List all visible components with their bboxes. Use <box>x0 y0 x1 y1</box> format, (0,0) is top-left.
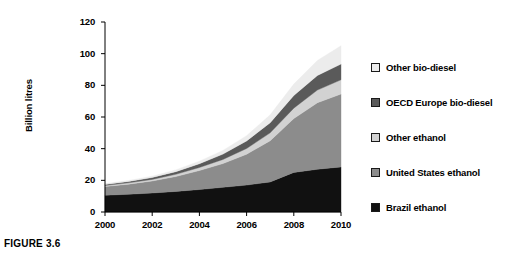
y-tick-label: 80 <box>65 79 95 90</box>
x-tick-label: 2004 <box>179 219 219 230</box>
legend-swatch-icon <box>371 98 380 107</box>
legend-label: United States ethanol <box>386 167 480 178</box>
y-tick-label: 100 <box>65 48 95 59</box>
legend-item: Other bio-diesel <box>371 50 519 85</box>
legend-swatch-icon <box>371 203 380 212</box>
figure-container: Billion litres 0204060801001202000200220… <box>0 0 519 263</box>
legend-item: Brazil ethanol <box>371 190 519 225</box>
legend-swatch-icon <box>371 133 380 142</box>
legend-item: Other ethanol <box>371 120 519 155</box>
y-tick-label: 120 <box>65 16 95 27</box>
chart-legend: Other bio-dieselOECD Europe bio-dieselOt… <box>371 50 519 225</box>
x-tick-label: 2000 <box>85 219 125 230</box>
legend-label: OECD Europe bio-diesel <box>386 97 493 108</box>
legend-label: Brazil ethanol <box>386 202 446 213</box>
y-tick-label: 40 <box>65 143 95 154</box>
y-tick-label: 60 <box>65 111 95 122</box>
legend-label: Other ethanol <box>386 132 446 143</box>
legend-label: Other bio-diesel <box>386 62 456 73</box>
y-axis-title: Billion litres <box>23 61 34 151</box>
x-tick-label: 2010 <box>321 219 361 230</box>
legend-swatch-icon <box>371 168 380 177</box>
y-tick-label: 20 <box>65 174 95 185</box>
legend-item: United States ethanol <box>371 155 519 190</box>
y-tick-label: 0 <box>65 206 95 217</box>
x-tick-label: 2006 <box>227 219 267 230</box>
x-tick-label: 2002 <box>132 219 172 230</box>
legend-swatch-icon <box>371 63 380 72</box>
figure-caption: FIGURE 3.6 <box>4 238 60 249</box>
x-tick-label: 2008 <box>274 219 314 230</box>
legend-item: OECD Europe bio-diesel <box>371 85 519 120</box>
